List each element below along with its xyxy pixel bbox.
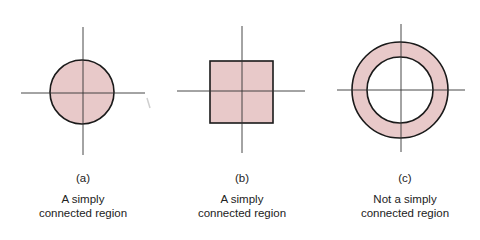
caption-line-1: Not a simply bbox=[335, 192, 475, 206]
disk-region bbox=[50, 60, 114, 124]
panel-b-square bbox=[177, 26, 305, 153]
panel-c-annulus bbox=[337, 24, 465, 152]
panel-label-c: (c) bbox=[335, 171, 475, 185]
panel-label-a: (a) bbox=[13, 171, 153, 185]
panel-label-b: (b) bbox=[172, 171, 312, 185]
caption-line-1: A simply bbox=[172, 192, 312, 206]
caption-line-2: connected region bbox=[172, 206, 312, 220]
caption-line-2: connected region bbox=[335, 206, 475, 220]
caption-a: (a) A simply connected region bbox=[13, 171, 153, 220]
caption-line-2: connected region bbox=[13, 206, 153, 220]
square-region bbox=[210, 61, 273, 123]
panel-a-disk bbox=[21, 27, 145, 155]
caption-b: (b) A simply connected region bbox=[172, 171, 312, 220]
caption-c: (c) Not a simply connected region bbox=[335, 171, 475, 220]
caption-line-1: A simply bbox=[13, 192, 153, 206]
smudge-mark bbox=[147, 98, 150, 108]
